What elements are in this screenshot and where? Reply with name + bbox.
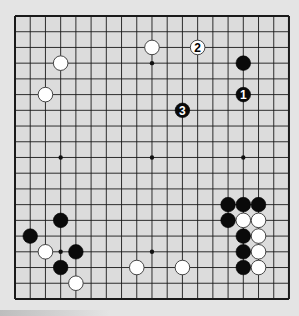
- black-stone: [53, 260, 68, 275]
- white-stone: [69, 276, 84, 291]
- white-stone: [251, 260, 266, 275]
- black-stone: [236, 229, 251, 244]
- white-stone: [175, 260, 190, 275]
- star-point: [58, 155, 62, 159]
- black-stone: [236, 260, 251, 275]
- black-stone: [236, 197, 251, 212]
- white-stone: [251, 213, 266, 228]
- black-stone: [221, 213, 236, 228]
- star-point: [241, 155, 245, 159]
- page-corner-shadow: [0, 310, 110, 316]
- black-stone: [23, 229, 38, 244]
- go-board: 213: [0, 0, 299, 316]
- black-stone: [53, 213, 68, 228]
- white-stone: [236, 213, 251, 228]
- star-point: [150, 155, 154, 159]
- star-point: [150, 61, 154, 65]
- white-stone: [251, 245, 266, 260]
- black-stone: [221, 197, 236, 212]
- move-number-label: 3: [179, 104, 186, 118]
- black-stone: 3: [175, 103, 190, 118]
- white-stone: [38, 245, 53, 260]
- white-stone: [129, 260, 144, 275]
- white-stone: [38, 87, 53, 102]
- black-stone: [236, 56, 251, 71]
- white-stone: [145, 40, 160, 55]
- white-stone: 2: [190, 40, 205, 55]
- move-number-label: 2: [194, 41, 201, 55]
- move-number-label: 1: [240, 88, 247, 102]
- white-stone: [251, 229, 266, 244]
- black-stone: [69, 245, 84, 260]
- black-stone: 1: [236, 87, 251, 102]
- white-stone: [53, 56, 68, 71]
- black-stone: [251, 197, 266, 212]
- star-point: [150, 250, 154, 254]
- star-point: [58, 250, 62, 254]
- black-stone: [236, 245, 251, 260]
